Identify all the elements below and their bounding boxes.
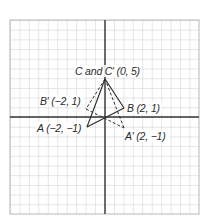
label-a: A (−2, −1) xyxy=(36,122,81,134)
label-b-prime: B′ (−2, 1) xyxy=(40,95,81,107)
label-a-prime: A′ (2, −1) xyxy=(124,130,166,142)
label-c-and-c-prime: C and C′ (0, 5) xyxy=(75,65,140,77)
coordinate-diagram: C and C′ (0, 5) B′ (−2, 1) B (2, 1) A (−… xyxy=(0,0,201,223)
label-b: B (2, 1) xyxy=(127,102,160,114)
